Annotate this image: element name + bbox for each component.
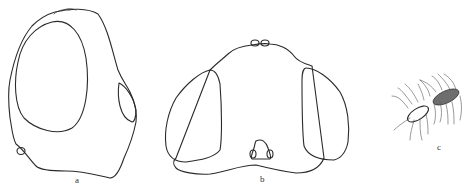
panel-a: a <box>9 9 137 185</box>
compound-eye-lateral <box>16 21 88 131</box>
head-outline-lateral <box>9 9 137 178</box>
panel-label-b: b <box>260 174 265 184</box>
head-outline-frontal <box>174 44 324 175</box>
panel-label-c: c <box>437 142 441 152</box>
occipital-lobe <box>118 83 136 122</box>
panel-c: c <box>392 74 462 152</box>
compound-eye-right <box>302 68 349 160</box>
figure-canvas: a b <box>0 0 472 190</box>
compound-eye-left <box>165 70 221 162</box>
antenna-setae <box>392 74 462 140</box>
ocellus-top-right <box>261 40 269 46</box>
panel-b: b <box>165 40 348 184</box>
ocellus-top-left <box>251 40 259 46</box>
panel-label-a: a <box>75 175 79 185</box>
